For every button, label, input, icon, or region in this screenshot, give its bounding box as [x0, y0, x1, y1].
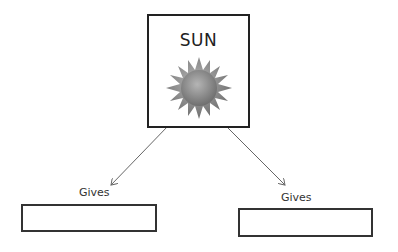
sun-icon [165, 56, 233, 120]
sun-title: SUN [149, 30, 248, 50]
gives-label-right: Gives [281, 191, 312, 204]
sun-box: SUN [147, 14, 250, 128]
answer-box-right[interactable] [238, 208, 373, 237]
arrow-left [111, 126, 168, 185]
diagram-canvas: SUN Gives Gives [0, 0, 398, 252]
answer-box-left[interactable] [21, 204, 157, 232]
gives-label-left: Gives [79, 186, 110, 199]
arrow-right [226, 126, 285, 185]
